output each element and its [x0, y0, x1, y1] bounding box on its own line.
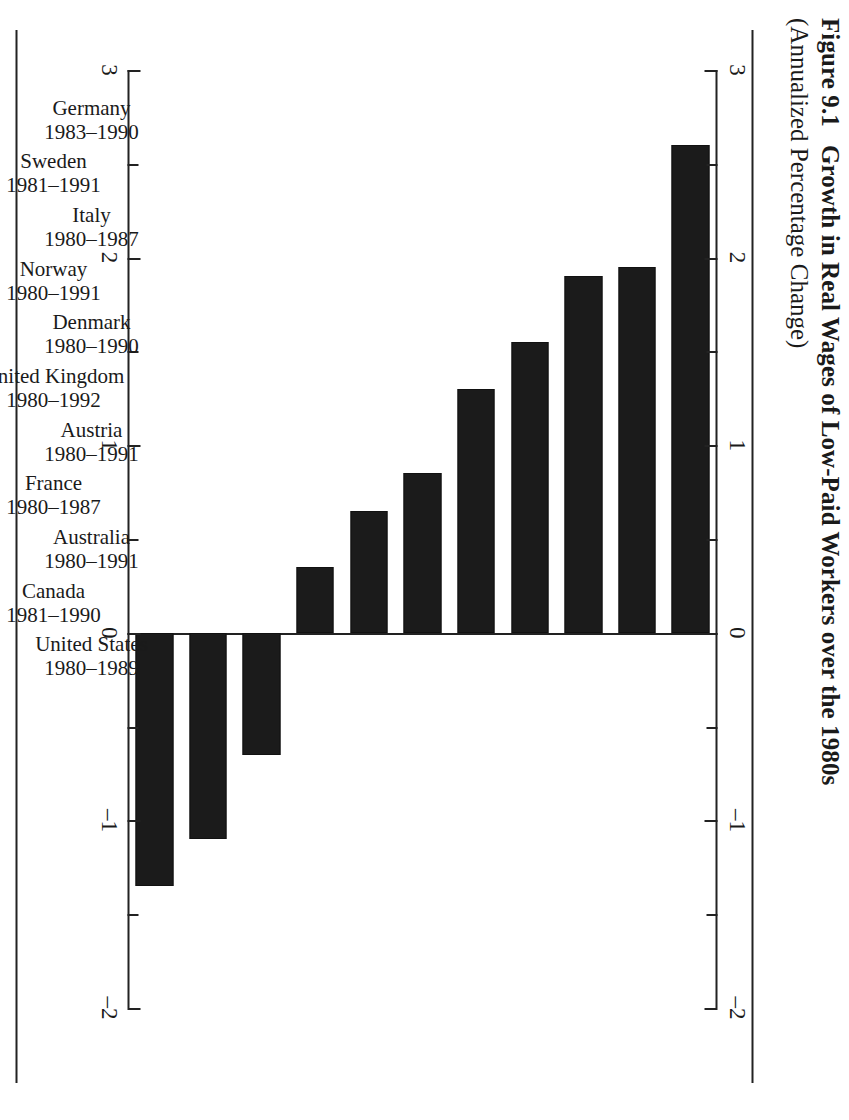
axis-tick	[706, 539, 717, 541]
bar-germany	[671, 145, 709, 633]
category-country: United States	[11, 633, 171, 657]
axis-tick	[706, 351, 717, 353]
bar-united-kingdom	[403, 473, 441, 632]
axis-tick-label: 3	[95, 50, 121, 90]
category-period: 1980–1991	[11, 442, 171, 466]
bar-row	[457, 70, 495, 1008]
category-country: United Kingdom	[0, 365, 133, 389]
category-label-denmark: Denmark1980–1990	[11, 311, 171, 358]
bar-row	[511, 70, 549, 1008]
axis-tick-label: 1	[723, 425, 749, 465]
category-country: Germany	[11, 97, 171, 121]
axis-tick-label: –1	[95, 800, 121, 840]
bar-canada	[189, 633, 227, 839]
category-period: 1980–1987	[0, 496, 133, 520]
bar-denmark	[457, 389, 495, 633]
figure-subtitle: (Annualized Percentage Change)	[784, 18, 812, 1098]
bar-row	[296, 70, 334, 1008]
bar-italy	[564, 276, 602, 632]
category-period: 1980–1991	[11, 549, 171, 573]
axis-tick	[704, 258, 717, 260]
figure-upright-container: Figure 9.1Growth in Real Wages of Low-Pa…	[0, 0, 849, 1120]
bar-row	[671, 70, 709, 1008]
axis-tick	[127, 1008, 140, 1010]
figure-page: Figure 9.1Growth in Real Wages of Low-Pa…	[0, 0, 849, 1120]
category-period: 1980–1990	[11, 335, 171, 359]
bar-row	[618, 70, 656, 1008]
category-country: France	[0, 472, 133, 496]
category-label-germany: Germany1983–1990	[11, 97, 171, 144]
bar-row	[242, 70, 280, 1008]
axis-tick	[127, 70, 140, 72]
figure-number: Figure 9.1	[816, 18, 843, 127]
bar-australia	[242, 633, 280, 755]
category-label-france: France1980–1987	[0, 472, 133, 519]
category-country: Austria	[11, 419, 171, 443]
category-period: 1981–1990	[0, 603, 133, 627]
axis-tick	[706, 914, 717, 916]
axis-tick	[127, 727, 138, 729]
bar-series	[127, 70, 717, 1008]
axis-tick	[704, 633, 717, 635]
category-country: Sweden	[0, 150, 133, 174]
axis-tick	[704, 70, 717, 72]
bar-france	[296, 567, 334, 633]
bar-row	[564, 70, 602, 1008]
category-period: 1980–1992	[0, 389, 133, 413]
category-label-australia: Australia1980–1991	[11, 526, 171, 573]
category-label-united-states: United States1980–1989	[11, 633, 171, 680]
figure-title-line: Figure 9.1Growth in Real Wages of Low-Pa…	[815, 18, 843, 1098]
category-country: Canada	[0, 580, 133, 604]
bar-austria	[350, 511, 388, 633]
bar-row	[403, 70, 441, 1008]
category-label-sweden: Sweden1981–1991	[0, 150, 133, 197]
category-label-austria: Austria1980–1991	[11, 419, 171, 466]
plot-area: 33221100–1–1–2–2	[127, 70, 717, 1008]
plot-frame: 33221100–1–1–2–2 Germany1983–1990Sweden1…	[15, 30, 753, 1083]
axis-tick	[704, 820, 717, 822]
axis-tick-label: 0	[723, 613, 749, 653]
axis-tick	[127, 820, 140, 822]
bar-sweden	[618, 267, 656, 633]
axis-tick-label: –1	[723, 800, 749, 840]
category-period: 1983–1990	[11, 120, 171, 144]
category-country: Denmark	[11, 311, 171, 335]
page-title: Growth in Real Wages of Low-Paid Workers…	[816, 127, 843, 785]
axis-tick	[704, 1008, 717, 1010]
category-country: Australia	[11, 526, 171, 550]
axis-tick-label: 3	[723, 50, 749, 90]
bar-row	[350, 70, 388, 1008]
axis-tick-label: –2	[723, 988, 749, 1028]
category-period: 1980–1987	[11, 228, 171, 252]
bar-norway	[511, 342, 549, 633]
category-period: 1980–1989	[11, 657, 171, 681]
axis-tick	[706, 164, 717, 166]
category-period: 1981–1991	[0, 174, 133, 198]
axis-tick	[127, 914, 138, 916]
axis-tick-label: 2	[723, 238, 749, 278]
category-labels: Germany1983–1990Sweden1981–1991Italy1980…	[15, 70, 91, 1008]
category-country: Italy	[11, 204, 171, 228]
category-label-norway: Norway1980–1991	[0, 258, 133, 305]
category-label-italy: Italy1980–1987	[11, 204, 171, 251]
category-label-canada: Canada1981–1990	[0, 580, 133, 627]
axis-tick	[706, 727, 717, 729]
category-label-united-kingdom: United Kingdom1980–1992	[0, 365, 133, 412]
bar-row	[189, 70, 227, 1008]
category-country: Norway	[0, 258, 133, 282]
axis-tick-label: –2	[95, 988, 121, 1028]
axis-tick	[704, 445, 717, 447]
category-period: 1980–1991	[0, 281, 133, 305]
figure-title-block: Figure 9.1Growth in Real Wages of Low-Pa…	[784, 18, 843, 1098]
